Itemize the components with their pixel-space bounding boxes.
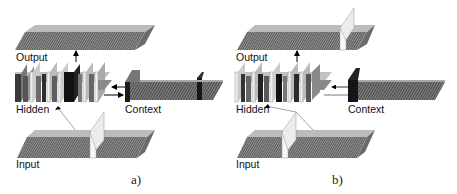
context-layer-sheet — [125, 70, 223, 102]
panel-caption: b) — [332, 172, 343, 188]
input-layer-sheet — [237, 112, 375, 158]
input-label: Input — [236, 159, 259, 170]
input-to-hidden-connection — [266, 106, 296, 112]
output-label: Output — [236, 52, 268, 63]
hidden-layer-slabs — [15, 62, 112, 102]
hidden-layer-slabs — [235, 62, 332, 102]
hidden-label: Hidden — [16, 104, 49, 115]
input-layer-sheet — [17, 112, 155, 158]
output-layer-sheet — [15, 25, 155, 50]
output-label: Output — [16, 52, 48, 63]
hidden-label: Hidden — [236, 104, 269, 115]
output-layer-sheet — [237, 8, 375, 50]
context-layer-sheet — [348, 68, 445, 102]
panel-caption: a) — [131, 172, 141, 188]
panel-a: Output Hidden Context Input a) — [0, 0, 228, 194]
context-label: Context — [348, 104, 384, 115]
context-label: Context — [125, 104, 161, 115]
panel-b: Output Hidden Context Input b) — [228, 0, 456, 194]
input-label: Input — [16, 159, 39, 170]
input-fan-connection — [296, 112, 313, 130]
panel-b-diagram — [228, 0, 456, 194]
